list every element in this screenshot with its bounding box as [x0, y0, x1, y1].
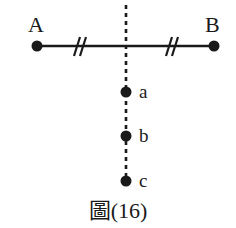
point-label-B: B — [205, 14, 220, 36]
point-label-b: b — [139, 126, 149, 145]
point-a-dot — [32, 41, 43, 52]
point-label-c: c — [139, 171, 147, 190]
point-label-A: A — [28, 14, 44, 36]
point-lower-a-dot — [121, 87, 132, 98]
geometry-figure: A B a b c 圖(16) — [0, 0, 236, 228]
point-lower-b-dot — [121, 131, 132, 142]
figure-caption: 圖(16) — [0, 198, 236, 224]
point-lower-c-dot — [121, 176, 132, 187]
point-b-dot — [209, 41, 220, 52]
point-label-a: a — [139, 82, 147, 101]
